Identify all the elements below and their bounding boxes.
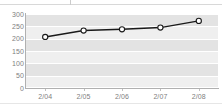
data-point-marker (81, 28, 86, 33)
data-point-marker (196, 18, 201, 23)
clipped-header-region (0, 0, 222, 7)
x-tick-label: 2/08 (179, 93, 219, 101)
plot-area (26, 14, 218, 88)
x-tick-mark (45, 89, 46, 91)
y-axis-labels: 050100150200250300 (0, 0, 24, 107)
series-line-layer (26, 14, 218, 88)
y-tick-label: 300 (2, 11, 24, 18)
x-tick-label: 2/04 (25, 93, 65, 101)
y-tick-label: 250 (2, 23, 24, 30)
clipped-header-rule (0, 4, 222, 5)
series-1-markers (43, 18, 202, 39)
clipped-header-tick (70, 0, 71, 5)
y-tick-label: 100 (2, 60, 24, 67)
data-point-marker (119, 27, 124, 32)
x-tick-mark (199, 89, 200, 91)
y-tick-label: 150 (2, 48, 24, 55)
y-axis-line (25, 13, 26, 89)
y-tick-label: 200 (2, 35, 24, 42)
x-tick-mark (160, 89, 161, 91)
line-chart: 050100150200250300 2/042/052/062/072/08 (0, 0, 222, 107)
x-tick-mark (84, 89, 85, 91)
data-point-marker (158, 25, 163, 30)
x-tick-label: 2/05 (64, 93, 104, 101)
x-tick-label: 2/07 (140, 93, 180, 101)
data-point-marker (43, 34, 48, 39)
x-tick-label: 2/06 (102, 93, 142, 101)
y-tick-label: 50 (2, 72, 24, 79)
y-tick-label: 0 (2, 85, 24, 92)
x-tick-mark (122, 89, 123, 91)
bottom-divider (0, 103, 222, 104)
